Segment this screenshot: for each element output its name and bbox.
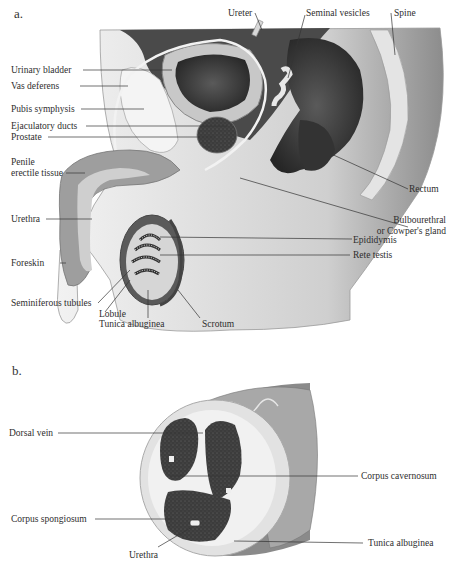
label-scrotum: Scrotum (202, 319, 234, 329)
label-ejaculatory-ducts: Ejaculatory ducts (11, 121, 77, 131)
label-rete-testis: Rete testis (353, 250, 392, 260)
anatomy-illustration (0, 0, 454, 576)
label-urethra-b: Urethra (129, 550, 158, 560)
label-dorsal-vein: Dorsal vein (9, 428, 53, 438)
label-lobule: Lobule (99, 309, 126, 319)
label-tunica-albuginea-b: Tunica albuginea (368, 538, 433, 548)
label-spine: Spine (394, 8, 416, 18)
label-rectum: Rectum (409, 184, 439, 194)
label-epididymis: Epididymis (353, 235, 397, 245)
label-seminiferous-tubules: Seminiferous tubules (11, 298, 91, 308)
cross-section (140, 383, 318, 556)
label-penile-erectile-tissue-line1: Penile (11, 157, 35, 167)
label-bulbourethral-line1: Bulbourethral (393, 215, 446, 225)
label-corpus-cavernosum: Corpus cavernosum (361, 471, 437, 481)
label-seminal-vesicles: Seminal vesicles (306, 8, 370, 18)
label-prostate: Prostate (11, 132, 42, 142)
label-urethra: Urethra (11, 214, 40, 224)
label-penile-erectile-tissue-line2: erectile tissue (11, 168, 63, 178)
label-vas-deferens: Vas deferens (11, 81, 59, 91)
panel-b-label: b. (12, 363, 22, 379)
label-urinary-bladder: Urinary bladder (11, 65, 71, 75)
label-tunica-albuginea-a: Tunica albuginea (99, 319, 164, 329)
label-pubis-symphysis: Pubis symphysis (11, 104, 75, 114)
panel-a-label: a. (14, 6, 23, 22)
sagittal-section (58, 20, 444, 331)
label-ureter: Ureter (228, 8, 252, 18)
label-foreskin: Foreskin (11, 258, 44, 268)
label-corpus-spongiosum: Corpus spongiosum (11, 514, 87, 524)
